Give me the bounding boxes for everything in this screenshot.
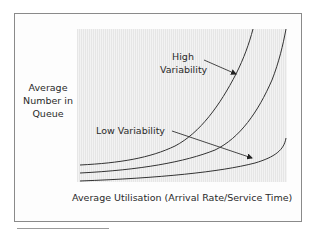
low-variability-arrow	[172, 131, 252, 158]
high-variability-arrow	[204, 60, 236, 74]
high-variability-label-line-1: High	[160, 50, 206, 63]
x-axis-label: Average Utilisation (Arrival Rate/Servic…	[72, 192, 292, 204]
y-axis-label: Average Number in Queue	[18, 81, 78, 120]
low-variability-label: Low Variability	[96, 125, 165, 137]
y-axis-label-line-2: Number in	[18, 94, 78, 107]
y-axis-label-line-1: Average	[18, 81, 78, 94]
y-axis-label-line-3: Queue	[18, 107, 78, 120]
high-variability-label: High Variability	[160, 50, 206, 76]
high-variability-label-line-2: Variability	[160, 63, 206, 76]
underline-divider	[17, 228, 109, 229]
